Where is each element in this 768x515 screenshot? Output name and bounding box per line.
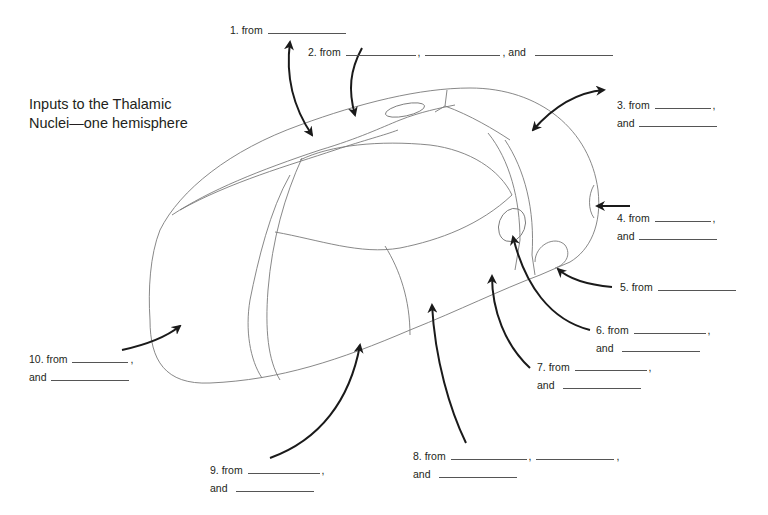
blank-3b[interactable] <box>639 116 717 127</box>
blank-7a[interactable] <box>575 360 647 371</box>
label-7: 7. from , and <box>537 358 652 394</box>
label-10: 10. from , and <box>29 350 133 386</box>
label-5: 5. from <box>620 278 738 296</box>
label-9: 9. from , and <box>210 461 325 497</box>
blank-9b[interactable] <box>236 481 314 492</box>
blank-7b[interactable] <box>563 378 641 389</box>
label-3: 3. from , and <box>617 96 719 132</box>
thalamus-diagram <box>0 0 768 515</box>
label-6: 6. from , and <box>596 321 711 357</box>
blank-3a[interactable] <box>655 98 711 109</box>
label-2: 2. from , , and <box>308 43 615 61</box>
blank-8b[interactable] <box>536 449 614 460</box>
arrow-8 <box>432 305 466 443</box>
blank-8c[interactable] <box>439 467 517 478</box>
arrow-9 <box>270 345 360 458</box>
label-8: 8. from , , and <box>413 447 619 483</box>
arrow-6 <box>513 237 590 330</box>
blank-5a[interactable] <box>658 280 736 291</box>
blank-6a[interactable] <box>634 323 706 334</box>
blank-9a[interactable] <box>248 463 320 474</box>
blank-2c[interactable] <box>535 45 613 56</box>
blank-2b[interactable] <box>425 45 500 56</box>
arrow-5 <box>558 269 612 287</box>
blank-10b[interactable] <box>51 370 129 381</box>
arrow-3 <box>533 90 604 130</box>
blank-6b[interactable] <box>622 341 700 352</box>
blank-4b[interactable] <box>639 229 717 240</box>
blank-4a[interactable] <box>655 211 711 222</box>
blank-8a[interactable] <box>451 449 527 460</box>
blank-2a[interactable] <box>346 45 416 56</box>
arrow-7 <box>492 276 530 368</box>
thalamus-outline <box>149 88 598 383</box>
label-4: 4. from , and <box>617 209 719 245</box>
label-1: 1. from <box>230 21 348 39</box>
blank-10a[interactable] <box>72 352 128 363</box>
blank-1a[interactable] <box>268 23 346 34</box>
